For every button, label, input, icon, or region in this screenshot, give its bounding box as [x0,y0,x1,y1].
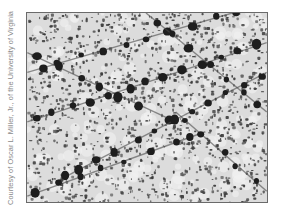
micrograph-texture [27,13,267,202]
micrograph-image [26,12,268,203]
photo-credit: Courtesy of Oscar L. Miller, Jr., of the… [6,11,15,205]
